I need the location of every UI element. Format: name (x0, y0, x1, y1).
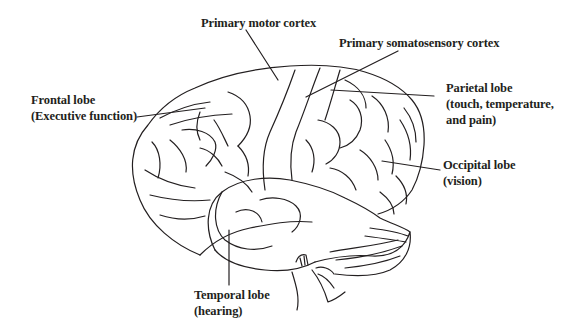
label-frontal-lobe: Frontal lobe (Executive function) (31, 92, 137, 124)
label-temporal-title: Temporal lobe (194, 287, 270, 303)
label-primary-motor-cortex: Primary motor cortex (201, 15, 316, 31)
label-temporal-function: (hearing) (194, 303, 270, 319)
label-parietal-function-2: and pain) (446, 112, 554, 128)
central-sulcus (263, 70, 295, 190)
leader-primary-somatosensory (306, 51, 398, 97)
label-parietal-lobe: Parietal lobe (touch, temperature, and p… (446, 80, 554, 128)
leader-parietal (331, 90, 434, 96)
label-occipital-lobe: Occipital lobe (vision) (443, 157, 516, 189)
label-occipital-title: Occipital lobe (443, 157, 516, 173)
label-primary-somatosensory-title: Primary somatosensory cortex (339, 35, 499, 51)
label-parietal-function-1: (touch, temperature, (446, 96, 554, 112)
label-frontal-title: Frontal lobe (31, 92, 137, 108)
label-primary-somatosensory-cortex: Primary somatosensory cortex (339, 35, 499, 51)
brainstem (292, 272, 298, 310)
label-primary-motor-title: Primary motor cortex (201, 15, 316, 31)
brain-diagram: Primary motor cortex Primary somatosenso… (0, 0, 579, 329)
cerebrum-outline (132, 65, 424, 255)
leader-frontal (137, 108, 205, 117)
label-frontal-function: (Executive function) (31, 108, 137, 124)
label-parietal-title: Parietal lobe (446, 80, 554, 96)
leader-occipital (382, 161, 440, 170)
label-occipital-function: (vision) (443, 173, 516, 189)
leader-primary-motor (246, 30, 278, 80)
label-temporal-lobe: Temporal lobe (hearing) (194, 287, 270, 319)
